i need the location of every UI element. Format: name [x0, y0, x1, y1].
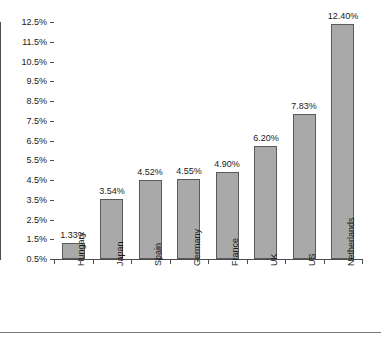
- y-axis-tick: [50, 42, 54, 43]
- y-axis-tick-label: 12.5%: [1, 18, 47, 27]
- y-axis-tick: [50, 22, 54, 23]
- x-axis-tick: [170, 260, 171, 264]
- y-axis-tick: [50, 160, 54, 161]
- x-axis-category-label: Netherlands: [347, 217, 356, 266]
- y-axis-tick: [50, 200, 54, 201]
- y-axis-tick-label: 9.5%: [1, 77, 47, 86]
- chart-title: [0, 0, 381, 1]
- x-axis-category-label: Germany: [193, 229, 202, 266]
- x-axis-tick: [247, 260, 248, 264]
- y-axis-tick: [50, 220, 54, 221]
- y-axis-tick-label: 10.5%: [1, 58, 47, 67]
- x-axis-tick: [208, 260, 209, 264]
- bar[interactable]: [254, 146, 277, 259]
- bottom-divider: [0, 332, 381, 333]
- y-axis-tick-label: 6.5%: [1, 137, 47, 146]
- x-axis-tick: [54, 260, 55, 264]
- y-axis-tick-label: 0.5%: [1, 255, 47, 264]
- bar-value-label: 3.54%: [82, 187, 142, 196]
- y-axis-tick: [50, 180, 54, 181]
- x-axis-tick: [93, 260, 94, 264]
- x-axis-tick: [324, 260, 325, 264]
- x-axis-category-label: Spain: [154, 243, 163, 266]
- bar-value-label: 4.90%: [197, 160, 257, 169]
- y-axis-tick-label: 3.5%: [1, 196, 47, 205]
- x-axis-category-label: Japan: [116, 241, 125, 266]
- x-axis-category-label: Hungary: [77, 232, 86, 266]
- x-axis-category-label: France: [231, 238, 240, 266]
- x-axis-tick: [362, 260, 363, 264]
- y-axis-tick-label: 11.5%: [1, 38, 47, 47]
- y-axis-tick-label: 4.5%: [1, 176, 47, 185]
- y-axis-tick-label: 5.5%: [1, 156, 47, 165]
- y-axis-tick: [50, 81, 54, 82]
- y-axis-tick-label: 7.5%: [1, 117, 47, 126]
- bar-value-label: 7.83%: [274, 102, 334, 111]
- x-axis-tick: [131, 260, 132, 264]
- bar-value-label: 1.33%: [43, 231, 103, 240]
- x-axis-tick: [285, 260, 286, 264]
- bar-value-label: 12.40%: [313, 12, 373, 21]
- y-axis-tick: [50, 101, 54, 102]
- y-axis-tick-label: 8.5%: [1, 97, 47, 106]
- y-axis-tick: [50, 62, 54, 63]
- bar[interactable]: [293, 114, 316, 259]
- bar-chart: 12.5%11.5%10.5%9.5%8.5%7.5%6.5%5.5%4.5%3…: [0, 0, 381, 342]
- y-axis-tick-label: 1.5%: [1, 235, 47, 244]
- y-axis-tick-label: 2.5%: [1, 216, 47, 225]
- y-axis-tick: [50, 121, 54, 122]
- x-axis-category-label: UK: [270, 253, 279, 266]
- x-axis-category-label: US: [308, 253, 317, 266]
- y-axis-tick: [50, 141, 54, 142]
- bar-value-label: 6.20%: [236, 134, 296, 143]
